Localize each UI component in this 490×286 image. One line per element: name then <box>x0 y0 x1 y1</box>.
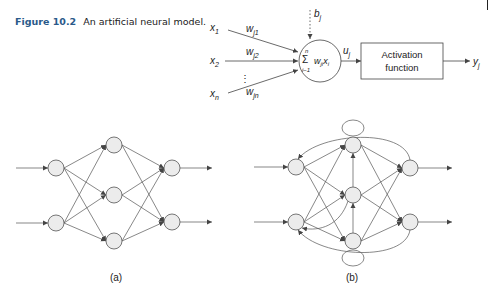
net-b-input-node-1 <box>288 159 304 175</box>
sum-term: wjixi <box>314 56 330 67</box>
net-b-hidden-node-3 <box>345 233 361 249</box>
network-a-label: (a) <box>110 272 122 283</box>
net-a-output-node-2 <box>164 214 180 230</box>
weight-j2-label: wj2 <box>246 46 259 60</box>
input-edge-x1 <box>228 30 298 52</box>
network-b-label: (b) <box>346 272 358 283</box>
net-a-hidden-node-2 <box>106 187 122 203</box>
bias-label: bj <box>314 8 322 22</box>
weight-jn-label: wjn <box>246 86 259 100</box>
input-x2-label: x2 <box>209 55 219 68</box>
sum-lower-limit: i−1 <box>302 67 310 73</box>
net-a-input-node-2 <box>48 215 64 231</box>
input-xn-label: xn <box>209 88 219 101</box>
net-b-output-node-1 <box>402 160 418 176</box>
net-a-input-node-1 <box>48 160 64 176</box>
net-b-hidden-node-1 <box>345 137 361 153</box>
activation-line-2: function <box>385 62 418 73</box>
output-label: yj <box>472 56 480 70</box>
network-b-recurrent <box>254 120 452 266</box>
net-b-input-node-2 <box>288 214 304 230</box>
network-a-feedforward <box>16 137 212 249</box>
activation-line-1: Activation <box>381 49 422 60</box>
input-x1-label: x1 <box>209 22 219 35</box>
sigma-symbol: Σ <box>302 54 308 65</box>
input-edge-xn <box>228 70 298 93</box>
net-a-hidden-node-1 <box>106 137 122 153</box>
net-b-output-node-2 <box>402 214 418 230</box>
figure-canvas: x1 x2 xn wj1 wj2 wjn ⋮ bj n Σ i−1 wjixi … <box>0 0 490 286</box>
ellipsis-vertical: ⋮ <box>240 73 250 84</box>
net-b-hidden-node-2 <box>345 187 361 203</box>
net-a-hidden-node-3 <box>106 233 122 249</box>
net-a-output-node-1 <box>164 160 180 176</box>
weight-j1-label: wj1 <box>246 23 259 37</box>
net-output-label: uj <box>343 45 351 59</box>
